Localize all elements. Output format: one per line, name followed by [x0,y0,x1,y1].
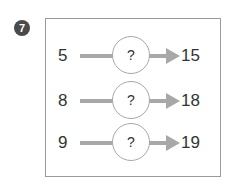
arrow-right-icon [166,93,180,109]
mapping-row: 9 ? 19 [46,123,220,163]
function-machine-box: 5 ? 15 8 ? 18 9 ? 19 [45,18,221,177]
output-number: 18 [181,81,200,121]
arrow-right-icon [166,135,180,151]
arrow-shaft [149,141,167,145]
arrow-right-icon [166,48,180,64]
input-number: 5 [58,36,67,76]
problem-number-badge: 7 [14,20,30,36]
input-number: 8 [58,81,67,121]
output-number: 19 [181,123,200,163]
input-number: 9 [58,123,67,163]
arrow-shaft [149,99,167,103]
operator-circle: ? [112,36,150,74]
operator-circle: ? [112,123,150,161]
connector-line [80,141,114,145]
connector-line [80,54,114,58]
mapping-row: 5 ? 15 [46,36,220,76]
arrow-shaft [149,54,167,58]
operator-circle: ? [112,81,150,119]
output-number: 15 [181,36,200,76]
connector-line [80,99,114,103]
mapping-row: 8 ? 18 [46,81,220,121]
